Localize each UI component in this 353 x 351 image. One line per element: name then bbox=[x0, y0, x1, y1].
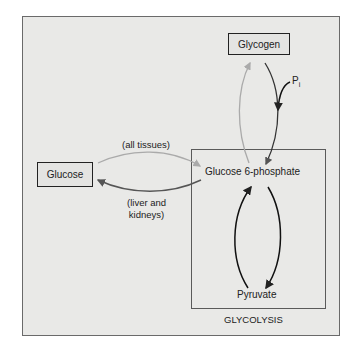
glycolysis-label: GLYCOLYSIS bbox=[224, 314, 283, 326]
g6p-label: Glucose 6-phosphate bbox=[205, 166, 300, 178]
arrow-glycogen-to-g6p bbox=[265, 63, 278, 164]
arrow-g6p-to-glycogen bbox=[239, 63, 250, 163]
arrow-glucose-to-g6p bbox=[98, 152, 200, 166]
arrow-g6p-to-glucose bbox=[98, 180, 201, 191]
arrow-g6p-to-pyruvate bbox=[266, 187, 281, 288]
liver-kidneys-label: (liver and kidneys) bbox=[127, 197, 166, 221]
glycogen-node: Glycogen bbox=[228, 33, 290, 55]
glucose-node: Glucose bbox=[37, 162, 93, 187]
arrow-pyruvate-to-g6p bbox=[235, 187, 251, 288]
glucose-label: Glucose bbox=[47, 169, 84, 180]
pyruvate-label: Pyruvate bbox=[237, 289, 276, 301]
arrow-pi bbox=[278, 82, 290, 110]
glycogen-label: Glycogen bbox=[238, 39, 280, 50]
all-tissues-label: (all tissues) bbox=[122, 139, 170, 151]
pi-label: Pi bbox=[292, 75, 300, 91]
